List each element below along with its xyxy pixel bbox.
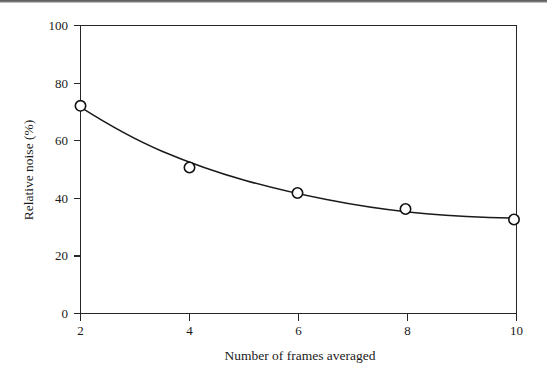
chart-plot-area: 100 80 60 40 20 0 2 4 6 8 10 Relative no…	[0, 0, 547, 375]
x-tick-label-8: 8	[404, 323, 411, 338]
x-tick-label-10: 10	[510, 323, 523, 338]
x-axis-ticks	[81, 314, 517, 321]
y-tick-label-20: 20	[55, 248, 68, 263]
fit-curve	[81, 107, 517, 218]
data-point-1	[75, 101, 85, 111]
y-tick-label-40: 40	[55, 191, 68, 206]
y-tick-labels: 100 80 60 40 20 0	[49, 18, 69, 321]
y-tick-label-80: 80	[55, 76, 68, 91]
data-point-4	[400, 204, 410, 214]
x-tick-label-4: 4	[186, 323, 193, 338]
data-point-5	[509, 214, 519, 224]
x-tick-label-6: 6	[295, 323, 302, 338]
y-tick-label-0: 0	[62, 306, 69, 321]
data-point-3	[292, 188, 302, 198]
x-axis-title: Number of frames averaged	[224, 348, 375, 363]
x-tick-label-2: 2	[77, 323, 84, 338]
axes-frame	[81, 26, 517, 314]
figure-canvas: 100 80 60 40 20 0 2 4 6 8 10 Relative no…	[0, 0, 547, 375]
y-axis-title: Relative noise (%)	[21, 120, 36, 220]
y-tick-label-60: 60	[55, 133, 68, 148]
x-tick-labels: 2 4 6 8 10	[77, 323, 523, 338]
data-point-markers	[75, 101, 519, 225]
y-tick-label-100: 100	[49, 18, 69, 33]
y-axis-ticks	[74, 26, 81, 314]
data-point-2	[184, 162, 194, 172]
